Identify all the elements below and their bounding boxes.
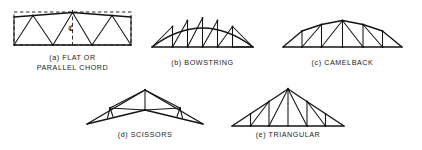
joint-dot [232, 46, 234, 48]
joint-dot [109, 107, 111, 109]
joint-dot [301, 30, 303, 32]
truss-diagram-camelback [283, 19, 402, 47]
top-chord-left [232, 89, 288, 126]
joint-dot [187, 46, 189, 48]
joint-dot [179, 107, 181, 109]
web-diagonal-2 [33, 16, 53, 46]
joint-dot [321, 24, 323, 26]
joint-dot [341, 19, 343, 21]
caption-camelback: (c) CAMELBACK [283, 58, 402, 68]
bottom-chord-right [145, 110, 203, 124]
truss-diagram-scissors [87, 89, 203, 124]
web-diagonal-left-outer [251, 102, 270, 127]
joint-dot [172, 46, 174, 48]
joint-dot [342, 46, 344, 48]
joint-dot [268, 125, 270, 127]
joint-dot [325, 125, 327, 127]
top-chord-right [145, 90, 203, 124]
web-diagonal-left-upper [110, 90, 145, 108]
web-diagonal-6 [112, 16, 131, 46]
joint-dot [111, 15, 113, 17]
caption-flat-parallel-chord: (a) FLAT OR PARALLEL CHORD [14, 53, 131, 72]
web-diagonal-1 [14, 16, 33, 46]
web-scissor-right [145, 108, 180, 110]
joint-dot [202, 17, 204, 19]
joint-dot [232, 26, 234, 28]
joint-dot [91, 44, 93, 46]
bottom-chord-left [87, 110, 145, 124]
truss-diagram-bowstring [152, 17, 253, 48]
truss-figure: ℄ (a) FLAT OR PARALLEL CHORD (b) BOWSTRI… [0, 0, 422, 150]
joint-dot [287, 88, 289, 90]
web-diagonal-4 [203, 21, 218, 48]
joint-dot [144, 109, 146, 111]
caption-scissors: (d) SCISSORS [87, 130, 203, 140]
web-diagonal-right-outer [307, 102, 326, 127]
web-strut-left [108, 108, 111, 118]
joint-dot [71, 11, 73, 13]
web-diagonal-right-upper [145, 90, 180, 108]
caption-triangular: (e) TRIANGULAR [232, 130, 344, 140]
web-diagonal-3 [188, 18, 203, 47]
joint-dot [202, 46, 204, 48]
joint-dot [306, 125, 308, 127]
joint-dot [382, 46, 384, 48]
joint-dot [52, 44, 54, 46]
joint-dot [144, 89, 146, 91]
caption-bowstring: (b) BOWSTRING [152, 58, 253, 68]
joint-dot [301, 46, 303, 48]
joint-dot [172, 26, 174, 28]
joint-dot [250, 113, 252, 115]
truss-diagram-triangular [232, 88, 344, 127]
joint-dot [217, 20, 219, 22]
joint-dot [306, 101, 308, 103]
top-chord-right [288, 89, 344, 126]
centerline-symbol: ℄ [68, 25, 73, 33]
joint-dot [362, 24, 364, 26]
joint-dot [268, 101, 270, 103]
joint-dot [187, 20, 189, 22]
web-strut-right [180, 108, 183, 118]
joint-dot [321, 46, 323, 48]
joint-dot [362, 46, 364, 48]
web-diagonal-4 [73, 13, 93, 46]
joint-dot [325, 113, 327, 115]
web-diagonal-5 [92, 16, 112, 46]
joint-dot [32, 15, 34, 17]
joint-dot [250, 125, 252, 127]
top-chord-left [87, 90, 145, 124]
joint-dot [382, 30, 384, 32]
truss-drawing-canvas [0, 0, 422, 150]
joint-dot [217, 46, 219, 48]
web-scissor-left [110, 108, 145, 110]
